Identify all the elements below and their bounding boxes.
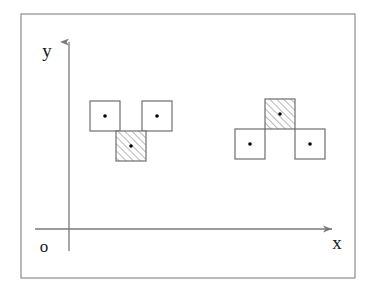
square-center-dot: [129, 144, 133, 148]
right-group-square-top-center[interactable]: [265, 99, 295, 129]
origin-label: o: [40, 237, 49, 256]
left-group-square-bottom-center[interactable]: [116, 131, 146, 161]
x-axis-label: x: [332, 232, 342, 253]
coordinate-plane-figure: y x o: [0, 0, 372, 293]
square-center-dot: [278, 112, 282, 116]
square-center-dot: [248, 142, 252, 146]
right-group-square-bottom-right[interactable]: [295, 129, 325, 159]
figure-canvas: y x o: [0, 0, 372, 293]
left-group-square-top-left[interactable]: [90, 101, 120, 131]
square-center-dot: [155, 114, 159, 118]
square-center-dot: [308, 142, 312, 146]
tile-layer: [90, 99, 325, 161]
left-triomino-group: [90, 101, 172, 161]
right-group-square-bottom-left[interactable]: [235, 129, 265, 159]
right-triomino-group: [235, 99, 325, 159]
square-center-dot: [103, 114, 107, 118]
y-axis-label: y: [42, 40, 52, 61]
left-group-square-top-right[interactable]: [142, 101, 172, 131]
